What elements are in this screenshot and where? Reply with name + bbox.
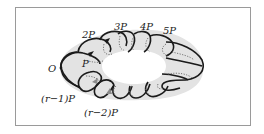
origin-point	[60, 67, 63, 70]
label-4p: 4P	[139, 21, 153, 32]
label-3p: 3P	[114, 21, 127, 32]
label-origin: O	[48, 63, 56, 74]
label-5p: 5P	[163, 25, 176, 36]
label-2p: 2P	[81, 29, 95, 40]
label-r-minus-2-p: (r−2)P	[84, 107, 118, 118]
torus-helix-diagram: O P 2P 3P 4P 5P (r−1)P (r−2)P	[0, 0, 264, 134]
label-r-minus-1-p: (r−1)P	[41, 93, 75, 104]
label-p: P	[81, 58, 89, 69]
